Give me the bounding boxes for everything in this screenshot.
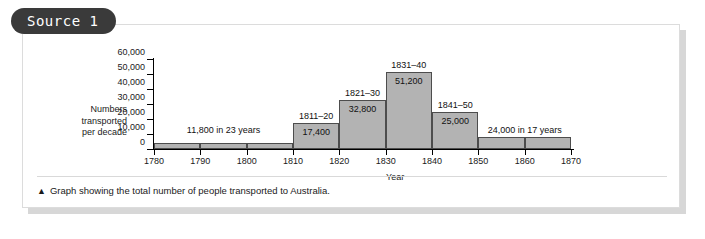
- x-axis-tick-label: 1800: [227, 156, 267, 166]
- y-axis-tick-label: 0: [95, 137, 145, 147]
- bar-value-label: 25,000: [432, 116, 478, 126]
- x-axis-tick-label: 1790: [180, 156, 220, 166]
- bar-value-label: 32,800: [339, 104, 385, 114]
- x-axis-tick-label: 1820: [319, 156, 359, 166]
- x-axis-tick-label: 1850: [458, 156, 498, 166]
- chart-bar: [200, 143, 246, 149]
- x-axis-tick-label: 1830: [366, 156, 406, 166]
- bar-value-label: 51,200: [386, 76, 432, 86]
- chart-bar: [525, 137, 571, 149]
- x-axis-tick-label: 1840: [412, 156, 452, 166]
- x-axis-tick: [386, 150, 387, 155]
- y-axis-tick: [147, 104, 154, 105]
- triangle-marker-icon: ▲: [37, 186, 46, 196]
- y-axis-tick: [147, 89, 154, 90]
- source-badge: Source 1: [11, 8, 116, 34]
- x-axis-tick: [200, 150, 201, 155]
- x-axis-tick-label: 1810: [273, 156, 313, 166]
- x-axis-title: Year: [386, 172, 404, 182]
- x-axis-tick: [571, 150, 572, 155]
- chart-bar: [154, 143, 200, 149]
- y-axis-tick-label: 20,000: [95, 107, 145, 117]
- y-axis-tick-label: 50,000: [95, 62, 145, 72]
- x-axis-tick: [154, 150, 155, 155]
- x-axis-tick: [525, 150, 526, 155]
- figure-caption: ▲Graph showing the total number of peopl…: [37, 185, 330, 196]
- y-axis-tick: [147, 74, 154, 75]
- x-axis-tick: [293, 150, 294, 155]
- x-axis-tick: [247, 150, 248, 155]
- plot-area: 60,00050,00040,00030,00020,00010,0000178…: [23, 25, 681, 175]
- chart-figure: Numbers transported per decade 60,00050,…: [23, 25, 681, 175]
- x-axis-tick-label: 1860: [505, 156, 545, 166]
- bar-period-label: 1831–40: [378, 60, 440, 70]
- source-card: Numbers transported per decade 60,00050,…: [22, 24, 680, 208]
- chart-annotation: 24,000 in 17 years: [458, 125, 591, 135]
- x-axis-line: [153, 149, 574, 150]
- y-axis-tick: [147, 149, 154, 150]
- x-axis-tick: [478, 150, 479, 155]
- x-axis-tick-label: 1780: [134, 156, 174, 166]
- screenshot-root: Numbers transported per decade 60,00050,…: [0, 0, 705, 239]
- chart-bar: [478, 137, 524, 149]
- x-axis-tick: [432, 150, 433, 155]
- chart-bar: [247, 143, 293, 149]
- bar-period-label: 1811–20: [285, 111, 347, 121]
- y-axis-tick-label: 40,000: [95, 77, 145, 87]
- bar-period-label: 1821–30: [331, 88, 393, 98]
- x-axis-tick: [339, 150, 340, 155]
- y-axis-tick: [147, 119, 154, 120]
- y-axis-tick: [147, 59, 154, 60]
- y-axis-tick-label: 60,000: [95, 47, 145, 57]
- y-axis-tick-label: 30,000: [95, 92, 145, 102]
- caption-text: Graph showing the total number of people…: [50, 185, 330, 196]
- caption-divider: [37, 176, 667, 177]
- chart-annotation: 11,800 in 23 years: [134, 125, 313, 135]
- x-axis-tick-label: 1870: [551, 156, 591, 166]
- bar-period-label: 1841–50: [424, 100, 486, 110]
